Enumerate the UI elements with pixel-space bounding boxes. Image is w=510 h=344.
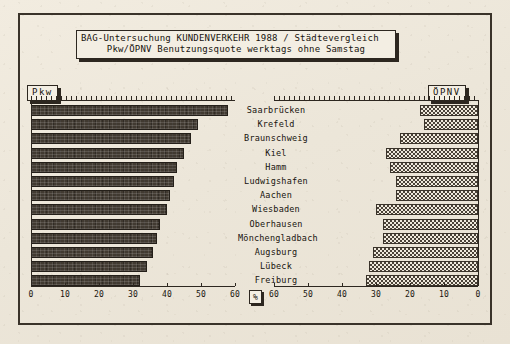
city-label: Krefeld (238, 119, 314, 130)
axis-tick-label: 20 (400, 290, 420, 299)
bar-opnv (386, 148, 478, 159)
city-label: Augsburg (238, 247, 314, 258)
city-label: Kiel (238, 148, 314, 159)
city-label: Saarbrücken (238, 105, 314, 116)
bar-pkw (31, 247, 153, 258)
bar-opnv (400, 133, 478, 144)
bar-pkw (31, 176, 174, 187)
bar-opnv (383, 233, 478, 244)
axis-tick (478, 283, 479, 286)
bar-opnv (396, 176, 478, 187)
bar-pkw (31, 275, 140, 286)
axis-tick-label: 40 (332, 290, 352, 299)
axis-tick-label: 0 (21, 290, 41, 299)
bar-opnv (420, 105, 478, 116)
bar-pkw (31, 148, 184, 159)
bar-pkw (31, 190, 170, 201)
city-label: Hamm (238, 162, 314, 173)
bar-opnv (396, 190, 478, 201)
axis-tick-comb (31, 96, 235, 100)
axis-tick-label: 30 (123, 290, 143, 299)
axis-tick (235, 283, 236, 286)
city-label: Braunschweig (238, 133, 314, 144)
axis-tick (201, 283, 202, 286)
axis-tick (342, 283, 343, 286)
bar-opnv (376, 204, 478, 215)
city-label: Aachen (238, 190, 314, 201)
chart-title-box: BAG-Untersuchung KUNDENVERKEHR 1988 / St… (76, 30, 396, 59)
axis-tick (31, 283, 32, 286)
axis-tick (274, 283, 275, 286)
axis-line (274, 100, 478, 101)
axis-tick (65, 283, 66, 286)
axis-vertical (478, 100, 479, 286)
bar-opnv (424, 119, 478, 130)
city-label: Oberhausen (238, 219, 314, 230)
city-label: Ludwigshafen (238, 176, 314, 187)
axis-tick-label: 10 (55, 290, 75, 299)
bar-pkw (31, 133, 191, 144)
axis-tick (133, 283, 134, 286)
city-label: Freiburg (238, 275, 314, 286)
axis-line (274, 286, 478, 287)
axis-tick (444, 283, 445, 286)
bar-pkw (31, 105, 228, 116)
bar-opnv (383, 219, 478, 230)
axis-tick-label: 30 (366, 290, 386, 299)
axis-line (31, 100, 235, 101)
axis-tick (410, 283, 411, 286)
axis-line (31, 286, 235, 287)
bar-pkw (31, 219, 160, 230)
axis-tick (376, 283, 377, 286)
chart-title-line2: Pkw/ÖPNV Benutzungsquote werktags ohne S… (81, 44, 391, 55)
city-label: Mönchengladbach (238, 233, 314, 244)
bar-pkw (31, 261, 147, 272)
percent-unit-marker: % (249, 290, 262, 304)
axis-tick-label: 0 (468, 290, 488, 299)
axis-tick (99, 283, 100, 286)
axis-tick-label: 20 (89, 290, 109, 299)
axis-tick-label: 10 (434, 290, 454, 299)
axis-tick-label: 60 (225, 290, 245, 299)
bar-pkw (31, 162, 177, 173)
axis-tick-label: 60 (264, 290, 284, 299)
city-label: Wiesbaden (238, 204, 314, 215)
chart-plot-area: BAG-Untersuchung KUNDENVERKEHR 1988 / St… (0, 0, 510, 344)
bar-opnv (369, 261, 478, 272)
axis-tick-comb (274, 96, 478, 100)
bar-opnv (390, 162, 478, 173)
bar-opnv (366, 275, 478, 286)
axis-tick-label: 40 (157, 290, 177, 299)
axis-vertical (31, 100, 32, 286)
bar-pkw (31, 119, 198, 130)
axis-tick-label: 50 (191, 290, 211, 299)
axis-tick (308, 283, 309, 286)
bar-pkw (31, 233, 157, 244)
chart-title-line1: BAG-Untersuchung KUNDENVERKEHR 1988 / St… (81, 33, 391, 44)
city-label: Lübeck (238, 261, 314, 272)
axis-tick (167, 283, 168, 286)
axis-tick-label: 50 (298, 290, 318, 299)
bar-pkw (31, 204, 167, 215)
bar-opnv (373, 247, 478, 258)
